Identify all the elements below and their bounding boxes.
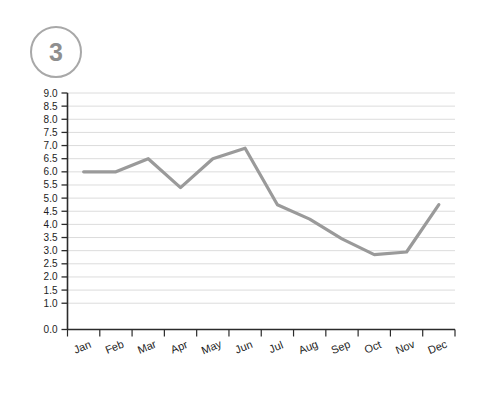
x-axis-tick-labels: JanFebMarAprMayJunJulAugSepOctNovDec (72, 337, 449, 356)
y-axis-tick-label: 7.5 (44, 127, 58, 138)
x-axis-ticks (68, 330, 456, 337)
x-axis-tick-label: Nov (394, 337, 417, 356)
y-axis-tick-label: 5.5 (44, 179, 58, 190)
y-axis-tick-label: 6.0 (44, 166, 58, 177)
y-axis-tick-label: 4.5 (44, 206, 58, 217)
y-axis-ticks (62, 93, 68, 330)
x-axis-tick-label: Oct (363, 338, 383, 356)
x-axis-tick-label: May (199, 337, 223, 356)
y-axis-tick-label: 2.5 (44, 258, 58, 269)
y-axis-tick-label: 3.5 (44, 232, 58, 243)
y-axis-tick-label: 2.0 (44, 271, 58, 282)
x-axis-tick-label: Jun (233, 338, 254, 356)
x-axis-tick-label: Jan (72, 338, 93, 356)
y-axis-tick-label: 7.0 (44, 140, 58, 151)
y-axis-tick-label: 4.0 (44, 219, 58, 230)
y-axis-tick-label: 9.0 (44, 88, 58, 99)
y-axis-tick-label: 6.5 (44, 153, 58, 164)
y-axis-tick-label: 3.0 (44, 245, 58, 256)
y-axis-tick-label: 8.5 (44, 101, 58, 112)
data-series-line (84, 148, 439, 254)
y-axis-tick-label: 8.0 (44, 114, 58, 125)
x-axis-tick-label: Dec (426, 337, 449, 356)
x-axis-tick-label: Sep (329, 338, 352, 356)
y-axis-tick-labels: 9.08.58.07.57.06.56.05.55.04.54.03.53.02… (44, 88, 58, 336)
chart-page: 3 9.08.58.07.57.06.56.05.55.04.54.03.53.… (0, 0, 484, 410)
x-axis-tick-label: Mar (136, 338, 158, 356)
gridlines (68, 93, 456, 303)
x-axis-tick-label: Feb (103, 338, 125, 356)
x-axis-tick-label: Aug (297, 338, 320, 356)
line-chart: 9.08.58.07.57.06.56.05.55.04.54.03.53.02… (0, 0, 484, 410)
y-axis-tick-label: 5.0 (44, 193, 58, 204)
x-axis-tick-label: Jul (267, 339, 285, 355)
y-axis-tick-label: 1.0 (44, 298, 58, 309)
y-axis-tick-label: 1.5 (44, 285, 58, 296)
x-axis-tick-label: Apr (169, 338, 190, 356)
y-axis-tick-label: 0.0 (44, 324, 58, 335)
